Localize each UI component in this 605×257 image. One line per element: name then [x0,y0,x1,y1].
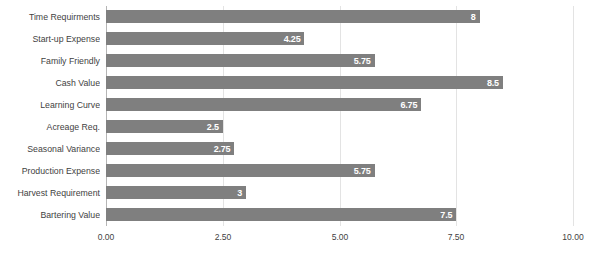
bar-row: 7.5 [106,204,573,226]
category-label: Family Friendly [8,50,100,72]
x-axis: 0.002.505.007.5010.00 [106,230,573,246]
bar-row: 4.25 [106,28,573,50]
bar[interactable]: 4.25 [106,32,304,45]
bar[interactable]: 6.75 [106,98,421,111]
bar-row: 6.75 [106,94,573,116]
bar-chart: Time RequirmentsStart-up ExpenseFamily F… [0,0,605,257]
category-label: Time Requirments [8,6,100,28]
bar-value-label: 3 [237,188,242,197]
category-label: Seasonal Variance [8,138,100,160]
category-label: Cash Value [8,72,100,94]
bar-value-label: 8.5 [487,78,499,87]
bar-row: 3 [106,182,573,204]
bar[interactable]: 2.75 [106,142,234,155]
x-tick-label: 7.50 [448,230,465,244]
bar-value-label: 6.75 [401,100,418,109]
bar[interactable]: 5.75 [106,54,375,67]
bar-value-label: 4.25 [284,34,301,43]
bar-value-label: 5.75 [354,166,371,175]
bar-value-label: 8 [471,12,476,21]
bar[interactable]: 5.75 [106,164,375,177]
x-tick-label: 10.00 [562,230,583,244]
bar-value-label: 2.5 [207,122,219,131]
bar[interactable]: 8.5 [106,76,503,89]
category-label: Bartering Value [8,204,100,226]
category-label: Acreage Req. [8,116,100,138]
category-label: Production Expense [8,160,100,182]
x-tick-label: 2.50 [214,230,231,244]
plot-area: 84.255.758.56.752.52.755.7537.5 [106,6,573,226]
bar-value-label: 5.75 [354,56,371,65]
category-label: Start-up Expense [8,28,100,50]
x-tick-label: 5.00 [331,230,348,244]
bar-row: 8.5 [106,72,573,94]
bar-row: 2.75 [106,138,573,160]
bar-row: 5.75 [106,50,573,72]
bar-value-label: 2.75 [214,144,231,153]
bar-row: 8 [106,6,573,28]
bar-row: 2.5 [106,116,573,138]
bar[interactable]: 3 [106,186,246,199]
category-axis: Time RequirmentsStart-up ExpenseFamily F… [0,6,100,226]
bar-row: 5.75 [106,160,573,182]
bar[interactable]: 8 [106,10,480,23]
x-tick-label: 0.00 [98,230,115,244]
bar-series: 84.255.758.56.752.52.755.7537.5 [106,6,573,226]
category-label: Learning Curve [8,94,100,116]
category-label: Harvest Requirement [8,182,100,204]
bar[interactable]: 7.5 [106,208,456,221]
bar-value-label: 7.5 [440,210,452,219]
bar[interactable]: 2.5 [106,120,223,133]
gridline-10.00 [573,6,574,226]
